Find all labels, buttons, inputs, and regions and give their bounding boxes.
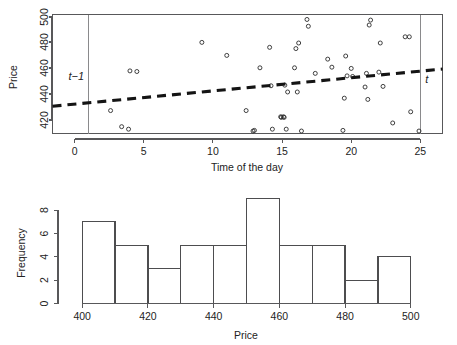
scatter-point (345, 74, 349, 78)
histogram-panel: Frequency 02468 400420440460480500 Price (15, 199, 420, 341)
scatter-point (366, 97, 370, 101)
scatter-x-tick-label: 20 (345, 145, 357, 157)
scatter-point (349, 66, 353, 70)
histogram-y-tick-label: 4 (38, 254, 50, 260)
scatter-point (367, 23, 371, 27)
histogram-bar (345, 280, 378, 303)
scatter-point (297, 41, 301, 45)
scatter-point (127, 127, 131, 131)
scatter-y-axis-title: Price (7, 65, 19, 89)
histogram-y-ticks (54, 210, 58, 303)
scatter-x-ticks (75, 139, 421, 143)
histogram-bar (148, 269, 181, 304)
scatter-point (313, 71, 317, 75)
histogram-y-tick-label: 0 (38, 300, 50, 306)
histogram-x-ticks (82, 304, 411, 309)
scatter-y-tick-labels: 420 440 460 480 500 (38, 8, 50, 129)
scatter-point (377, 70, 381, 74)
scatter-y-ticks (49, 17, 52, 120)
histogram-x-tick-label: 420 (139, 310, 157, 322)
scatter-point (258, 66, 262, 70)
histogram-y-tick-label: 2 (38, 277, 50, 283)
scatter-point (409, 110, 413, 114)
histogram-y-axis-title: Frequency (15, 227, 27, 277)
scatter-point (244, 109, 248, 113)
scatter-point (306, 24, 310, 28)
scatter-point (270, 127, 274, 131)
scatter-point (120, 125, 124, 129)
histogram-y-tick-label: 8 (38, 207, 50, 213)
scatter-y-tick-label: 440 (38, 85, 50, 103)
scatter-y-tick-label: 500 (38, 8, 50, 26)
figure-canvas: Price 420 440 460 480 500 (0, 0, 457, 345)
scatter-point (284, 127, 288, 131)
histogram-x-tick-label: 400 (73, 310, 91, 322)
scatter-point (369, 18, 373, 22)
histogram-x-tick-label: 480 (336, 310, 354, 322)
scatter-point (225, 53, 229, 57)
scatter-x-tick-label: 25 (415, 145, 427, 157)
scatter-point (293, 66, 297, 70)
histogram-x-tick-label: 500 (402, 310, 420, 322)
histogram-bar (181, 245, 214, 303)
scatter-point (305, 17, 309, 21)
histogram-bar (214, 245, 247, 303)
scatter-point (391, 121, 395, 125)
scatter-point (299, 129, 303, 133)
histogram-x-tick-label: 440 (205, 310, 223, 322)
histogram-y-tick-labels: 02468 (38, 207, 50, 306)
histogram-y-tick-label: 6 (38, 230, 50, 236)
scatter-point (294, 47, 298, 51)
statistical-figure: Price 420 440 460 480 500 (0, 0, 457, 345)
scatter-point (381, 84, 385, 88)
histogram-bar (378, 257, 411, 304)
histogram-x-tick-label: 460 (271, 310, 289, 322)
histogram-bar (82, 222, 115, 304)
scatter-y-tick-label: 420 (38, 111, 50, 129)
histogram-bar-group (82, 199, 411, 304)
scatter-point (200, 40, 204, 44)
scatter-y-tick-label: 460 (38, 59, 50, 77)
scatter-point (342, 96, 346, 100)
histogram-bar (312, 245, 345, 303)
scatter-x-tick-label: 15 (276, 145, 288, 157)
scatter-point (268, 45, 272, 49)
scatter-x-tick-labels: 0510152025 (72, 145, 427, 157)
scatter-point (135, 70, 139, 74)
scatter-point (286, 90, 290, 94)
scatter-point (407, 35, 411, 39)
scatter-point (128, 69, 132, 73)
scatter-point (378, 41, 382, 45)
scatter-point (326, 57, 330, 61)
scatter-point (344, 54, 348, 58)
label-t: t (425, 73, 429, 85)
histogram-bar (247, 199, 280, 304)
scatter-point (363, 85, 367, 89)
histogram-bar (279, 245, 312, 303)
label-t-minus-1: t−1 (68, 70, 84, 82)
scatter-x-tick-label: 10 (207, 145, 219, 157)
scatter-point (109, 109, 113, 113)
histogram-x-axis-title: Price (234, 329, 258, 341)
scatter-x-tick-label: 0 (72, 145, 78, 157)
scatter-y-tick-label: 480 (38, 33, 50, 51)
histogram-bar (115, 245, 148, 303)
scatter-point (341, 128, 345, 132)
scatter-x-axis-title: Time of the day (211, 161, 284, 173)
scatter-point (330, 65, 334, 69)
histogram-x-tick-labels: 400420440460480500 (73, 310, 419, 322)
scatter-point (403, 35, 407, 39)
scatter-point (295, 90, 299, 94)
scatter-reference-lines (88, 15, 420, 134)
scatter-plot-panel: Price 420 440 460 480 500 (7, 8, 443, 173)
scatter-x-tick-label: 5 (141, 145, 147, 157)
